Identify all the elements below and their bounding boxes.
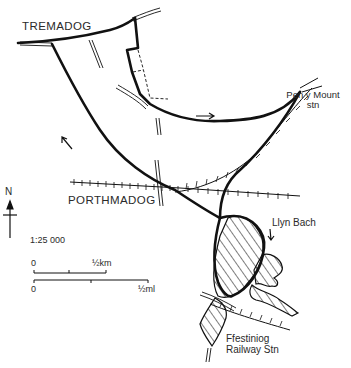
north-arrow-icon [3,201,17,238]
label-tremadog: TREMADOG [22,20,92,33]
north-label: N [5,186,12,197]
scale-km-label: ½km [92,259,112,269]
label-porthmadog: PORTHMADOG [68,194,156,207]
label-llyn-bach: Llyn Bach [272,217,316,228]
scale-bars [34,270,148,283]
label-pen-y-mount: Pen y Mount stn [278,90,348,111]
scale-mi-label: ½ml [138,285,155,295]
walk-route-map: TREMADOG PORTHMADOG Pen y Mount stn Llyn… [0,0,351,368]
arrow-east-icon [196,113,214,119]
label-pen-y-mount-line2: stn [278,100,348,110]
scale-mi-zero: 0 [31,285,36,295]
scale-km-zero: 0 [31,259,36,269]
map-drawing [0,0,351,368]
label-ffestiniog-line2: Railway Stn [226,344,279,355]
arrow-south-icon [268,229,274,240]
label-ffestiniog-line1: Ffestiniog [226,333,279,344]
scale-ratio: 1:25 000 [30,236,65,246]
railway-ticks [74,96,308,326]
label-ffestiniog-railway-stn: Ffestiniog Railway Stn [226,333,279,355]
water-hatched [200,216,298,346]
arrow-northwest-icon [62,137,72,149]
